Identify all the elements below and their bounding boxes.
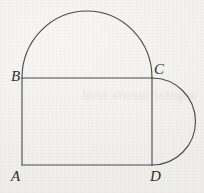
vertex-label-B: B	[11, 69, 20, 84]
arc-semicircle-on-CD	[152, 78, 196, 165]
geometry-figure-canvas: angular inertia food A B C D	[0, 0, 204, 193]
vertex-label-D: D	[150, 169, 161, 184]
vertex-label-C: C	[154, 62, 164, 77]
vertex-label-A: A	[11, 169, 20, 184]
figure-drawing	[0, 0, 204, 193]
arc-semicircle-on-BC	[22, 11, 152, 78]
